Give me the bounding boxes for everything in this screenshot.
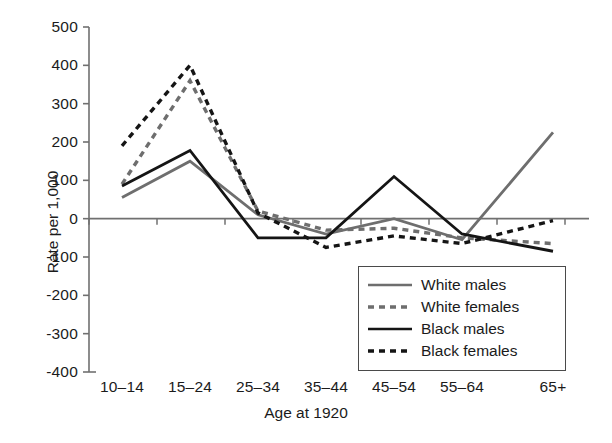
y-tick-label: -400 [0,363,78,381]
y-tick-label: -100 [0,248,78,266]
legend-swatch-icon [367,278,413,292]
legend-label: Black females [421,343,517,359]
legend-label: White females [421,299,519,315]
y-tick-label: 100 [0,171,78,189]
y-tick-label: 0 [0,210,78,228]
y-tick-label: 200 [0,133,78,151]
legend-item: White males [367,274,557,296]
series-lines [122,65,553,251]
y-axis-title: Rate per 1,000 [44,170,62,273]
series-line [122,132,553,239]
legend-item: White females [367,296,557,318]
x-tick-label: 35–44 [304,378,348,396]
y-tick-label: 500 [0,18,78,36]
legend-label: White males [421,277,506,293]
legend-swatch-icon [367,300,413,314]
legend-swatch-icon [367,322,413,336]
y-tick-label: 400 [0,56,78,74]
legend-item: Black males [367,318,557,340]
legend-item: Black females [367,340,557,362]
series-line [122,65,553,247]
axes [83,27,89,372]
y-tick-label: -200 [0,286,78,304]
y-tick-label: 300 [0,95,78,113]
x-tick-label: 55–64 [440,378,484,396]
x-tick-label: 10–14 [100,378,144,396]
chart-figure: 5004003002001000-100-200-300-400 10–1415… [0,0,612,443]
y-tick-label: -300 [0,325,78,343]
x-tick-label: 15–24 [168,378,212,396]
plot-area [0,0,612,443]
legend-swatch-icon [367,344,413,358]
x-axis-title: Age at 1920 [0,404,612,422]
legend-label: Black males [421,321,505,337]
x-tick-label: 45–54 [372,378,416,396]
x-tick-label: 25–34 [236,378,280,396]
x-tick-label: 65+ [540,378,567,396]
chart-legend: White malesWhite femalesBlack malesBlack… [358,266,566,371]
